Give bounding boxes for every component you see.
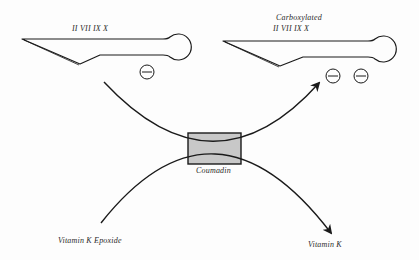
left-protein-shape (22, 34, 191, 65)
coumadin-inhibitor-box (188, 133, 241, 164)
left-factors-label: II VII IX X (72, 24, 108, 33)
negative-charge-icon (140, 65, 154, 79)
negative-charge-icon (326, 69, 340, 83)
coumadin-label: Coumadin (196, 166, 231, 175)
negative-charge-icon (354, 69, 368, 83)
right-protein-shape (223, 36, 396, 67)
vitamin-k-label: Vitamin K (308, 240, 342, 249)
carboxylated-label: Carboxylated (276, 13, 322, 22)
right-factors-label: II VII IX X (273, 24, 309, 33)
vitamin-k-cycle-diagram: II VII IX X Carboxylated II VII IX X Cou… (0, 0, 419, 260)
vitamin-k-epoxide-label: Vitamin K Epoxide (58, 236, 122, 245)
